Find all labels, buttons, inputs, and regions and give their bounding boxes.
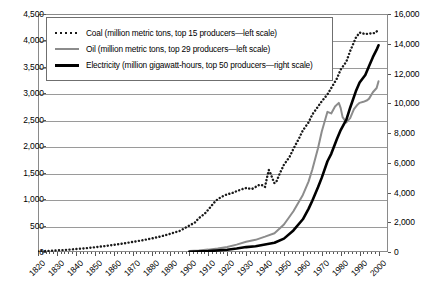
x-axis-tick bbox=[379, 252, 380, 256]
x-axis-tick bbox=[299, 252, 300, 254]
x-axis-tick bbox=[174, 252, 175, 254]
x-axis-tick bbox=[333, 252, 334, 254]
x-axis-tick bbox=[140, 252, 141, 254]
x-axis-tick bbox=[99, 252, 100, 254]
oil-line-swatch-icon bbox=[54, 44, 80, 54]
x-axis-tick bbox=[42, 252, 43, 254]
x-axis-tick bbox=[53, 252, 54, 254]
x-axis-tick bbox=[121, 252, 122, 254]
x-axis-tick bbox=[371, 252, 372, 254]
x-axis-tick bbox=[178, 252, 179, 254]
x-axis-tick bbox=[329, 252, 330, 254]
x-axis-tick bbox=[68, 252, 69, 254]
y-axis-right-tick bbox=[388, 133, 391, 134]
legend-item-coal: Coal (million metric tons, top 15 produc… bbox=[54, 25, 326, 41]
x-axis-tick bbox=[155, 252, 156, 254]
legend-item-oil: Oil (million metric tons, top 29 produce… bbox=[54, 41, 326, 57]
legend-label-coal: Coal (million metric tons, top 15 produc… bbox=[86, 28, 277, 38]
x-axis-tick bbox=[197, 252, 198, 254]
legend-label-electricity: Electricity (million gigawatt-hours, top… bbox=[86, 60, 313, 70]
x-axis-tick bbox=[163, 252, 164, 254]
y-axis-right-tick bbox=[388, 44, 391, 45]
y-axis-right-tick-label: 0 bbox=[394, 247, 399, 257]
x-axis-tick bbox=[344, 252, 345, 254]
x-axis-tick bbox=[239, 252, 240, 254]
x-axis-tick bbox=[356, 252, 357, 254]
x-axis-tick bbox=[235, 252, 236, 254]
x-axis-tick bbox=[250, 252, 251, 254]
x-axis-tick bbox=[375, 252, 376, 254]
x-axis-tick bbox=[72, 252, 73, 254]
x-axis-tick bbox=[186, 252, 187, 254]
x-axis-tick bbox=[269, 252, 270, 254]
x-axis-tick bbox=[288, 252, 289, 254]
x-axis-tick bbox=[182, 252, 183, 254]
x-axis-tick bbox=[265, 252, 266, 256]
y-axis-right-tick-label: 6,000 bbox=[394, 158, 415, 168]
legend-item-electricity: Electricity (million gigawatt-hours, top… bbox=[54, 57, 326, 73]
legend-label-oil: Oil (million metric tons, top 29 produce… bbox=[86, 44, 270, 54]
x-axis-tick bbox=[148, 252, 149, 254]
x-axis-tick bbox=[38, 252, 39, 256]
x-axis-tick bbox=[189, 252, 190, 256]
x-axis-tick bbox=[193, 252, 194, 254]
x-axis-tick bbox=[276, 252, 277, 254]
y-axis-right-tick bbox=[388, 103, 391, 104]
x-axis-tick bbox=[76, 252, 77, 256]
x-axis-tick bbox=[284, 252, 285, 256]
x-axis-tick bbox=[257, 252, 258, 254]
x-axis-tick bbox=[125, 252, 126, 254]
x-axis-tick bbox=[261, 252, 262, 254]
x-axis-tick bbox=[314, 252, 315, 254]
x-axis-tick bbox=[91, 252, 92, 254]
x-axis-tick bbox=[254, 252, 255, 254]
y-axis-right-tick-label: 2,000 bbox=[394, 217, 415, 227]
x-axis-tick bbox=[117, 252, 118, 254]
x-axis-tick bbox=[170, 252, 171, 256]
x-axis-tick bbox=[322, 252, 323, 256]
x-axis-tick bbox=[280, 252, 281, 254]
energy-production-chart: 05001,0001,5002,0002,5003,0003,5004,0004… bbox=[0, 0, 435, 290]
x-axis-tick bbox=[64, 252, 65, 254]
x-axis-tick bbox=[295, 252, 296, 254]
y-axis-right-tick-label: 12,000 bbox=[394, 69, 419, 79]
x-axis-tick bbox=[46, 252, 47, 254]
x-axis-tick bbox=[310, 252, 311, 254]
x-axis-tick bbox=[341, 252, 342, 256]
x-axis-tick bbox=[216, 252, 217, 254]
x-axis-tick bbox=[326, 252, 327, 254]
x-axis-tick bbox=[129, 252, 130, 254]
y-axis-right-tick-label: 14,000 bbox=[394, 39, 419, 49]
y-axis-right-tick bbox=[388, 14, 391, 15]
x-axis-tick bbox=[367, 252, 368, 254]
x-axis-tick bbox=[246, 252, 247, 256]
coal-line-swatch-icon bbox=[54, 28, 80, 38]
x-axis-tick bbox=[337, 252, 338, 254]
x-axis-tick bbox=[348, 252, 349, 254]
x-axis-tick bbox=[307, 252, 308, 254]
x-axis-tick bbox=[292, 252, 293, 254]
y-axis-right-tick bbox=[388, 222, 391, 223]
x-axis-tick bbox=[318, 252, 319, 254]
x-axis-tick bbox=[80, 252, 81, 254]
x-axis-tick bbox=[212, 252, 213, 254]
x-axis-tick bbox=[144, 252, 145, 254]
y-axis-right-tick bbox=[388, 163, 391, 164]
x-axis-tick bbox=[95, 252, 96, 256]
y-axis-right-tick bbox=[388, 193, 391, 194]
electricity-line-swatch-icon bbox=[54, 60, 80, 70]
x-axis-tick bbox=[87, 252, 88, 254]
x-axis-tick bbox=[201, 252, 202, 254]
x-axis-tick bbox=[167, 252, 168, 254]
x-axis-tick bbox=[136, 252, 137, 254]
y-axis-right-tick bbox=[388, 74, 391, 75]
x-axis-tick bbox=[110, 252, 111, 254]
x-axis-tick bbox=[352, 252, 353, 254]
x-axis-tick bbox=[363, 252, 364, 254]
x-axis-tick bbox=[133, 252, 134, 256]
y-axis-right-tick bbox=[388, 252, 391, 253]
x-axis-tick bbox=[220, 252, 221, 254]
y-axis-right-tick-label: 16,000 bbox=[394, 9, 419, 19]
x-axis-tick bbox=[273, 252, 274, 254]
x-axis-tick bbox=[231, 252, 232, 254]
